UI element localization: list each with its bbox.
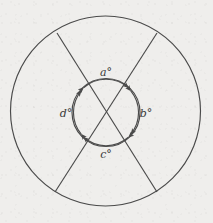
figure-canvas: a° b° c° d° xyxy=(0,0,213,223)
geometry-figure: a° b° c° d° xyxy=(0,0,213,223)
angle-label-c: c° xyxy=(100,148,112,161)
angle-arc-arrow-right xyxy=(131,91,139,134)
angle-arc-arrow-left xyxy=(73,91,81,134)
angle-label-a: a° xyxy=(100,66,112,79)
angle-label-b: b° xyxy=(140,107,153,120)
angle-arc-arrow-bottom xyxy=(84,137,129,145)
angle-label-d: d° xyxy=(60,107,73,120)
